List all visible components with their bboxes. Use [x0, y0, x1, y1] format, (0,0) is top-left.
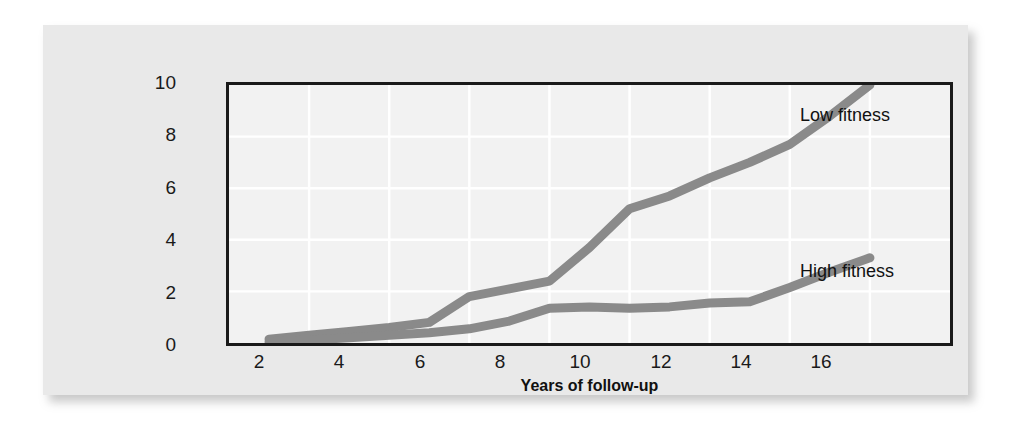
x-tick-label-12: 12 — [641, 352, 681, 371]
x-tick-label-2: 2 — [239, 352, 279, 371]
x-tick-label-4: 4 — [319, 352, 359, 371]
x-tick-label-10: 10 — [560, 352, 600, 371]
figure-root: Cumulative (percent) mortality 10 8 6 4 … — [0, 0, 1030, 444]
y-tick-label-8: 8 — [136, 125, 176, 144]
y-tick-label-10: 10 — [136, 73, 176, 92]
y-tick-label-0: 0 — [136, 335, 176, 354]
x-tick-label-16: 16 — [801, 352, 841, 371]
chart-figure-panel: Cumulative (percent) mortality 10 8 6 4 … — [43, 25, 968, 395]
x-tick-label-14: 14 — [721, 352, 761, 371]
x-tick-label-6: 6 — [400, 352, 440, 371]
x-tick-label-8: 8 — [480, 352, 520, 371]
series-annotation-high-fitness: High fitness — [800, 261, 894, 282]
series-paths-group — [269, 85, 870, 342]
y-tick-label-6: 6 — [136, 178, 176, 197]
y-axis-title: Cumulative (percent) mortality — [0, 113, 1, 377]
x-axis-title: Years of follow-up — [226, 377, 953, 395]
y-tick-label-4: 4 — [136, 230, 176, 249]
series-line-low-fitness — [269, 85, 870, 339]
series-annotation-low-fitness: Low fitness — [800, 105, 890, 126]
y-tick-label-2: 2 — [136, 283, 176, 302]
